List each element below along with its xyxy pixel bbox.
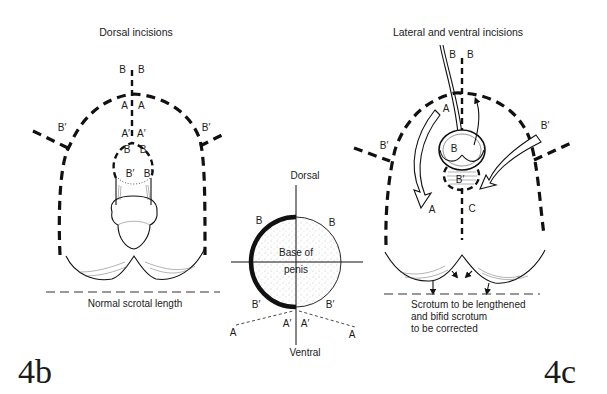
correction-arrow [452, 271, 456, 276]
flap-transfer-arrow-left [414, 110, 440, 208]
label-c: C [468, 203, 475, 214]
label-b: B [467, 49, 474, 60]
scrotum-hatch [400, 266, 528, 280]
caption-line: to be corrected [411, 323, 478, 334]
figure-4c: Lateral and ventral incisions Scr [354, 26, 576, 390]
figure-4c-title: Lateral and ventral incisions [393, 26, 523, 38]
label-b: B [449, 49, 456, 60]
caption-line: and bifid scrotum [411, 311, 487, 322]
penile-head [439, 130, 485, 170]
caption-line: Scrotum to be lengthened [411, 299, 526, 310]
scrotum-hatch [80, 262, 195, 276]
label-b-prime: B′ [541, 120, 550, 131]
label-a: A [443, 103, 450, 114]
figure-4b-label: 4b [18, 353, 52, 390]
label-a-prime: A′ [301, 318, 310, 329]
label-b-prime: B′ [144, 168, 153, 179]
label-a: A [138, 100, 145, 111]
right-lateral-branch [200, 135, 222, 146]
glans-outline [111, 196, 157, 249]
center-label: penis [284, 264, 308, 275]
label-b: B [138, 64, 145, 75]
normal-length-caption: Normal scrotal length [88, 298, 182, 309]
correction-arrow [467, 271, 472, 276]
label-b-prime: B′ [126, 168, 135, 179]
label-b: B [124, 144, 131, 155]
label-a: A [121, 100, 128, 111]
label-a-prime: A′ [137, 128, 146, 139]
dorsal-label: Dorsal [291, 170, 320, 181]
label-b-prime: B′ [58, 122, 67, 133]
label-b: B [256, 215, 263, 226]
figure-4b-title: Dorsal incisions [99, 26, 173, 38]
label-a: A [349, 329, 356, 340]
label-b-prime: B′ [380, 140, 389, 151]
flap-transfer-arrow-right [480, 135, 541, 189]
label-b-prime: B′ [202, 122, 211, 133]
figure-4b: Dorsal incisions Normal scrotal length B… [18, 26, 222, 390]
glans-hatch [118, 221, 150, 225]
scrotum-outline [66, 248, 205, 280]
label-b: B [140, 144, 147, 155]
label-a-prime: A′ [283, 318, 292, 329]
right-lateral-branch [534, 143, 571, 160]
penile-shaft-outline [116, 178, 151, 205]
label-b-prime: B′ [252, 299, 261, 310]
center-label: Base of [279, 247, 313, 258]
figure-4c-label: 4c [544, 353, 576, 390]
label-b-prime: B′ [326, 299, 335, 310]
ventral-label: Ventral [289, 347, 320, 358]
left-lateral-branch [33, 131, 68, 148]
label-b-prime: B′ [456, 174, 465, 185]
label-a: A [429, 204, 436, 215]
cross-section: Dorsal Ventral Base of penis B B B′ B′ A… [230, 170, 363, 358]
label-b: B [451, 143, 458, 154]
label-b: B [329, 217, 336, 228]
diagram-canvas: Dorsal incisions Normal scrotal length B… [0, 0, 607, 394]
label-a-prime: A′ [121, 128, 130, 139]
lengthen-arrow [487, 283, 489, 292]
label-b: B [119, 64, 126, 75]
label-a: A [230, 327, 237, 338]
